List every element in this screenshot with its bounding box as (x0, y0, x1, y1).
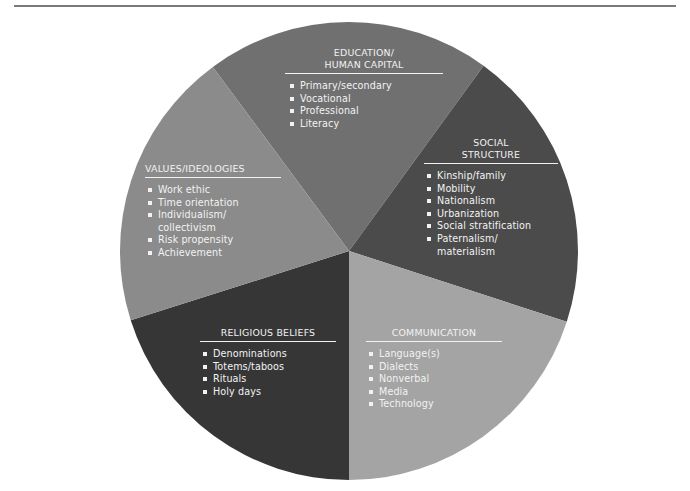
list-item: Nationalism (424, 195, 558, 208)
education-list: Primary/secondary Vocational Professiona… (285, 80, 443, 130)
list-item: Professional (287, 105, 443, 118)
list-item: Holy days (200, 386, 336, 399)
list-item: Denominations (200, 348, 336, 361)
segment-religious-beliefs: RELIGIOUS BELIEFS Denominations Totems/t… (200, 327, 336, 398)
list-item: Time orientation (145, 197, 281, 210)
list-item: Urbanization (424, 208, 558, 221)
list-item: Work ethic (145, 184, 281, 197)
list-item: Kinship/family (424, 170, 558, 183)
list-item: Individualism/ collectivism (145, 209, 281, 234)
segment-values-ideologies: VALUES/IDEOLOGIES Work ethic Time orient… (145, 163, 281, 260)
list-item: Technology (366, 398, 502, 411)
religious-beliefs-list: Denominations Totems/taboos Rituals Holy… (200, 348, 336, 398)
segment-title-communication: COMMUNICATION (366, 327, 502, 342)
communication-list: Language(s) Dialects Nonverbal Media Tec… (366, 348, 502, 411)
segment-title-religious-beliefs: RELIGIOUS BELIEFS (200, 327, 336, 342)
list-item: Language(s) (366, 348, 502, 361)
list-item: Rituals (200, 373, 336, 386)
social-structure-list: Kinship/family Mobility Nationalism Urba… (424, 170, 558, 258)
segment-communication: COMMUNICATION Language(s) Dialects Nonve… (366, 327, 502, 411)
list-item: Achievement (145, 247, 281, 260)
list-item: Primary/secondary (287, 80, 443, 93)
list-item: Mobility (424, 183, 558, 196)
segment-education: EDUCATION/ HUMAN CAPITAL Primary/seconda… (285, 47, 443, 130)
segment-title-values-ideologies: VALUES/IDEOLOGIES (145, 163, 281, 178)
values-ideologies-list: Work ethic Time orientation Individualis… (145, 184, 281, 260)
list-item: Totems/taboos (200, 361, 336, 374)
list-item: Risk propensity (145, 234, 281, 247)
list-item: Social stratification (424, 220, 558, 233)
segment-social-structure: SOCIAL STRUCTURE Kinship/family Mobility… (424, 137, 558, 258)
list-item: Vocational (287, 93, 443, 106)
list-item: Nonverbal (366, 373, 502, 386)
list-item: Literacy (287, 118, 443, 131)
list-item: Paternalism/ materialism (424, 233, 558, 258)
list-item: Dialects (366, 361, 502, 374)
list-item: Media (366, 386, 502, 399)
segment-title-social-structure: SOCIAL STRUCTURE (424, 137, 558, 164)
segment-title-education: EDUCATION/ HUMAN CAPITAL (285, 47, 443, 74)
